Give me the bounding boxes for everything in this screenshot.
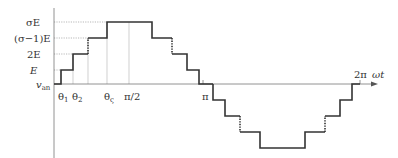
waveform-positive-half [54, 22, 213, 84]
label-sigma-minus-1-e: (σ−1)E [14, 33, 51, 44]
label-theta1: θ1 [58, 91, 69, 104]
label-pi: π [202, 91, 209, 102]
x-axis-arrow-icon [371, 82, 378, 87]
label-pi-half: π/2 [124, 91, 140, 102]
label-van: van [36, 79, 51, 92]
axes [54, 8, 378, 158]
staircase-waveform-diagram: σE (σ−1)E 2E E van θ1 θ2 θς π/2 π 2π ωt [0, 0, 398, 158]
label-theta-s: θς [104, 91, 114, 104]
waveform-negative-half [213, 84, 360, 148]
level-gridlines [54, 22, 107, 70]
label-theta2: θ2 [72, 91, 83, 104]
label-omega-t: ωt [372, 69, 385, 80]
y-axis-labels: σE (σ−1)E 2E E van [14, 17, 51, 92]
vertical-gridlines [61, 22, 129, 84]
label-sigma-e: σE [26, 17, 40, 28]
label-e: E [29, 65, 38, 76]
label-2pi: 2π [354, 69, 367, 80]
label-2e: 2E [27, 49, 41, 60]
